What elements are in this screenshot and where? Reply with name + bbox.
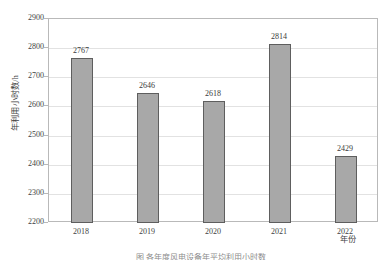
bar-value-2018: 2767 [61, 46, 101, 55]
bar-2018[interactable] [71, 58, 93, 223]
y-tick-label-2300: 2300 [4, 189, 44, 197]
y-tick-label-2800: 2800 [4, 43, 44, 51]
bar-value-2019: 2646 [127, 81, 167, 90]
y-tick-label-2700: 2700 [4, 72, 44, 80]
y-tick-label-2200: 2200 [4, 218, 44, 226]
bar-2019[interactable] [137, 93, 159, 223]
x-tick-label-2020: 2020 [190, 227, 236, 236]
x-axis-title: 年份 [340, 235, 356, 244]
figure-caption: 图 各年度风电设备年平均利用小时数 [96, 253, 306, 260]
bar-2020[interactable] [203, 101, 225, 223]
bar-2022[interactable] [335, 156, 357, 223]
y-tick-mark [44, 222, 48, 223]
y-tick-label-2500: 2500 [4, 131, 44, 139]
bar-value-2021: 2814 [259, 32, 299, 41]
y-tick-label-2600: 2600 [4, 101, 44, 109]
gridline-2700 [49, 77, 377, 78]
x-tick-label-2018: 2018 [58, 227, 104, 236]
x-tick-label-2021: 2021 [256, 227, 302, 236]
bar-2021[interactable] [269, 44, 291, 223]
bar-value-2022: 2429 [325, 144, 365, 153]
x-tick-label-2019: 2019 [124, 227, 170, 236]
y-tick-label-2400: 2400 [4, 160, 44, 168]
y-tick-label-2900: 2900 [4, 14, 44, 22]
bar-chart-figure: 年利用小时数/h 2900 2800 2700 2600 2500 2400 2… [0, 0, 388, 260]
bar-value-2020: 2618 [193, 89, 233, 98]
